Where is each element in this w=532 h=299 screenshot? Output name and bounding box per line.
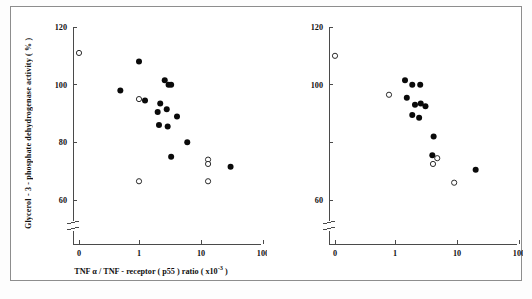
data-point-filled: [174, 113, 180, 119]
data-point-filled: [409, 112, 415, 118]
svg-text:10: 10: [453, 249, 461, 258]
svg-text:0: 0: [77, 249, 81, 258]
svg-text:1: 1: [137, 249, 141, 258]
data-point-filled: [165, 123, 171, 129]
data-point-filled: [156, 122, 162, 128]
data-point-filled: [142, 98, 148, 104]
data-point-open: [435, 156, 440, 161]
data-point-filled: [157, 100, 163, 106]
svg-text:0: 0: [333, 249, 337, 258]
panel-right: Glycerol - 3 - phosphate dehydrogenase a…: [267, 7, 523, 282]
svg-text:100: 100: [513, 249, 523, 258]
svg-text:100: 100: [311, 81, 323, 90]
data-point-open: [205, 161, 210, 166]
data-point-filled: [431, 134, 437, 140]
data-point-filled: [404, 95, 410, 101]
svg-text:10: 10: [197, 249, 205, 258]
data-point-filled: [184, 139, 190, 145]
data-point-open: [386, 92, 391, 97]
figure-frame: Glycerol - 3 - phosphate dehydrogenase a…: [10, 6, 522, 281]
data-point-filled: [228, 164, 234, 170]
data-point-open: [136, 179, 141, 184]
x-axis-label-left-main: TNF α / TNF - receptor ( p55 ) ratio ( x…: [74, 267, 218, 276]
data-point-filled: [136, 59, 142, 65]
data-point-filled: [168, 82, 174, 88]
scatter-plot-p55: 60801001200110100: [11, 7, 267, 282]
svg-text:1: 1: [393, 249, 397, 258]
data-point-open: [452, 180, 457, 185]
data-point-open: [76, 50, 81, 55]
data-point-filled: [409, 82, 415, 88]
data-point-open: [332, 53, 337, 58]
svg-text:120: 120: [311, 23, 323, 32]
data-point-filled: [402, 77, 408, 83]
svg-text:80: 80: [59, 138, 67, 147]
data-point-open: [430, 161, 435, 166]
x-axis-label-left: TNF α / TNF - receptor ( p55 ) ratio ( x…: [41, 264, 261, 276]
data-point-filled: [416, 115, 422, 121]
svg-text:60: 60: [315, 196, 323, 205]
svg-text:60: 60: [59, 196, 67, 205]
data-point-filled: [164, 106, 170, 112]
data-point-open: [205, 179, 210, 184]
data-point-filled: [417, 82, 423, 88]
panel-left: Glycerol - 3 - phosphate dehydrogenase a…: [11, 7, 267, 282]
data-point-open: [136, 96, 141, 101]
data-point-filled: [155, 109, 161, 115]
svg-text:100: 100: [55, 81, 67, 90]
x-axis-label-left-tail: ): [223, 267, 228, 276]
data-point-filled: [473, 167, 479, 173]
scatter-plot-p75: 601001200110100: [267, 7, 523, 282]
data-point-filled: [412, 102, 418, 108]
svg-text:120: 120: [55, 23, 67, 32]
data-point-filled: [168, 154, 174, 160]
data-point-filled: [117, 87, 123, 93]
data-point-filled: [422, 103, 428, 109]
svg-text:100: 100: [257, 249, 267, 258]
figure-root: Glycerol - 3 - phosphate dehydrogenase a…: [0, 0, 532, 299]
